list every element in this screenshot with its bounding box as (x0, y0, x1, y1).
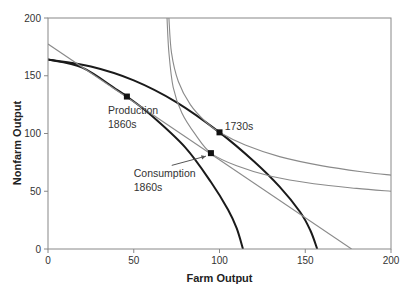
x-tick-label: 150 (297, 255, 314, 266)
x-tick-label: 50 (128, 255, 140, 266)
annotation-label: Consumption (134, 167, 196, 179)
annotation-label: 1860s (134, 181, 163, 193)
annotation-label: 1860s (108, 118, 137, 130)
axes: 050100150200050100150200 (24, 13, 399, 267)
y-tick-label: 100 (24, 128, 41, 139)
annotations: Production1860s1730sConsumption1860s (108, 104, 253, 194)
annotation-label: Production (108, 104, 158, 116)
x-axis-title: Farm Output (187, 272, 253, 284)
annotation-arrow (172, 156, 206, 165)
y-tick-label: 0 (35, 244, 41, 255)
data-point-marker (217, 129, 223, 135)
price-line (48, 44, 352, 249)
frontier-curve (48, 60, 317, 249)
data-point-marker (124, 94, 130, 100)
y-tick-label: 150 (24, 70, 41, 81)
annotation-label: 1730s (225, 120, 254, 132)
x-tick-label: 0 (45, 255, 51, 266)
chart: 050100150200050100150200 Production1860s… (0, 0, 412, 297)
indifference-curve (167, 18, 391, 191)
x-tick-label: 200 (383, 255, 400, 266)
data-point-marker (208, 150, 214, 156)
x-tick-label: 100 (211, 255, 228, 266)
y-axis-title: Nonfarm Output (11, 101, 23, 186)
y-tick-label: 50 (30, 186, 42, 197)
indifference-curve (169, 18, 391, 175)
y-tick-label: 200 (24, 13, 41, 24)
